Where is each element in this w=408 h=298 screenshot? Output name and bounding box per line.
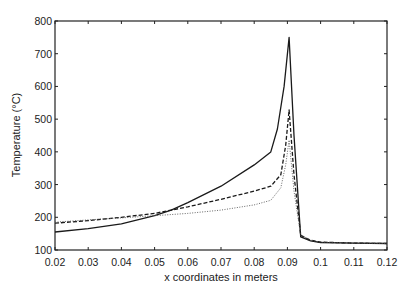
y-tick-label: 200 (34, 211, 52, 223)
y-tick-label: 800 (34, 15, 52, 27)
series-dotted-line (55, 140, 387, 243)
x-tick-label: 0.11 (344, 256, 364, 268)
y-tick-label: 600 (34, 80, 52, 92)
x-tick-label: 0.02 (45, 256, 66, 268)
x-axis-ticks: 0.020.030.040.050.060.070.080.090.10.110… (45, 21, 398, 268)
x-tick-label: 0.06 (178, 256, 199, 268)
x-tick-label: 0.05 (144, 256, 165, 268)
y-tick-label: 100 (34, 244, 52, 256)
x-tick-label: 0.1 (313, 256, 328, 268)
x-axis-title: x coordinates in meters (164, 271, 278, 283)
y-tick-label: 300 (34, 179, 52, 191)
y-axis-ticks: 100200300400500600700800 (34, 15, 387, 256)
x-tick-label: 0.09 (277, 256, 298, 268)
plot-frame (55, 21, 387, 250)
y-axis-title: Temperature (°C) (10, 93, 22, 177)
temperature-line-chart: 0.020.030.040.050.060.070.080.090.10.110… (0, 0, 408, 298)
series-layer (55, 37, 387, 243)
y-tick-label: 500 (34, 113, 52, 125)
x-tick-label: 0.08 (244, 256, 265, 268)
series-solid-line (55, 37, 387, 243)
x-tick-label: 0.04 (111, 256, 132, 268)
y-tick-label: 700 (34, 48, 52, 60)
x-tick-label: 0.07 (211, 256, 232, 268)
series-dashed-line (55, 110, 387, 244)
x-tick-label: 0.03 (78, 256, 99, 268)
y-tick-label: 400 (34, 146, 52, 158)
plot-border (55, 21, 387, 250)
x-tick-label: 0.12 (377, 256, 398, 268)
